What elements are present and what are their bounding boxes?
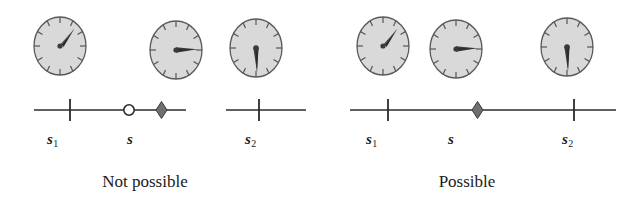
clock-hub [564,44,570,50]
clock-hub [57,43,62,48]
panel-possible: s1 s s2 Possible [322,0,644,209]
axis-svg [28,96,298,122]
clock-face-svg [537,15,597,79]
clock-s1 [353,14,413,78]
axis-label-s1: s1 [366,131,377,148]
axis-label-s2-sub: 2 [568,138,573,149]
clock-s [426,17,486,81]
clock-face-svg [353,14,413,78]
clock-row-possible [322,0,644,80]
caption-possible: Possible [322,172,612,192]
axis-label-s2-base: s [245,131,251,147]
axis-label-s: s [448,131,454,148]
axis-label-s-base: s [448,131,454,147]
axis-label-s1-sub: 1 [372,138,377,149]
diamond-marker-s [156,102,167,119]
axis-label-s: s [127,131,133,148]
axis-label-s1-base: s [366,131,372,147]
axis-label-s2-sub: 2 [251,138,256,149]
clock-hub [173,47,178,52]
clock-face-svg [426,17,486,81]
clock-s2 [226,16,286,80]
clock-s [146,18,206,82]
clock-face-svg [146,18,206,82]
caption-not-possible: Not possible [0,172,290,192]
axis-label-s-base: s [127,131,133,147]
axis-label-s2: s2 [562,131,573,148]
clock-hub [453,46,458,51]
axis-label-s1-sub: 1 [53,138,58,149]
clock-face-svg [30,14,90,78]
axis-label-s1-base: s [47,131,53,147]
clock-hub [380,43,385,48]
open-circle-marker [124,105,134,115]
axis-possible [346,96,626,122]
axis-label-s1: s1 [47,131,58,148]
axis-not-possible [28,96,298,122]
clock-row-not-possible [0,0,322,80]
clock-s1 [30,14,90,78]
clock-hub [253,45,259,51]
axis-svg [346,96,626,122]
axis-label-s2: s2 [245,131,256,148]
diamond-marker-s [472,102,483,119]
clock-s2 [537,15,597,79]
panel-not-possible: s1 s s2 Not possible [0,0,322,209]
figure-canvas: s1 s s2 Not possible [0,0,644,209]
clock-face-svg [226,16,286,80]
axis-label-s2-base: s [562,131,568,147]
